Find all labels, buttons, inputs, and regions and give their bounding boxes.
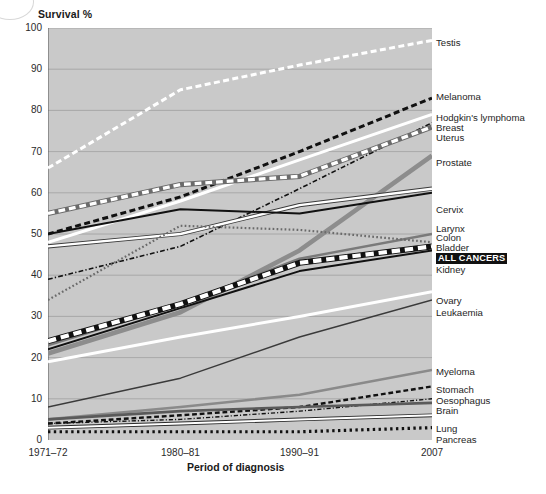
y-axis-tick: 40 — [16, 269, 42, 280]
series-label: Cervix — [436, 205, 463, 215]
series-label: Stomach — [436, 385, 474, 395]
gridlines — [48, 28, 432, 440]
y-axis-tick: 50 — [16, 228, 42, 239]
series-label-column: TestisMelanomaHodgkin's lymphomaBreastUt… — [436, 0, 546, 494]
series-label: Pancreas — [436, 435, 477, 445]
series-label: ALL CANCERS — [436, 253, 507, 264]
y-axis-tick: 0 — [16, 434, 42, 445]
y-axis-tick: 30 — [16, 310, 42, 321]
y-axis-tick: 100 — [16, 22, 42, 33]
series-line — [48, 127, 432, 214]
series-label: Melanoma — [436, 92, 481, 102]
y-axis-tick: 20 — [16, 352, 42, 363]
x-axis-title: Period of diagnosis — [187, 461, 284, 473]
series-label: Uterus — [436, 133, 464, 143]
x-axis-tick: 1990–91 — [265, 447, 335, 458]
survival-chart-figure: Survival % 1009080706050403020100 Testis… — [0, 0, 546, 494]
x-axis-tick: 1971–72 — [13, 447, 83, 458]
series-label: Ovary — [436, 296, 462, 306]
series-line — [48, 428, 432, 432]
series-line — [48, 300, 432, 407]
y-axis-tick-group: 1009080706050403020100 — [10, 0, 42, 494]
series-line — [48, 98, 432, 234]
y-axis-tick: 70 — [16, 146, 42, 157]
series-label: Lung — [436, 424, 457, 434]
series-label: Leukaemia — [436, 308, 483, 318]
series-label: Testis — [436, 38, 461, 48]
x-axis-tick: 1980–81 — [145, 447, 215, 458]
y-axis-title: Survival % — [38, 8, 92, 20]
chart-svg — [48, 28, 432, 440]
y-axis-tick: 60 — [16, 187, 42, 198]
series-lines — [48, 40, 432, 431]
series-label: Kidney — [436, 265, 465, 275]
y-axis-tick: 90 — [16, 63, 42, 74]
series-label: Brain — [436, 406, 458, 416]
series-label: Myeloma — [436, 367, 475, 377]
y-axis-tick: 80 — [16, 104, 42, 115]
plot-area — [48, 28, 432, 440]
series-label: Prostate — [436, 158, 472, 168]
series-label: Bladder — [436, 243, 469, 253]
x-axis-tick: 2007 — [397, 447, 467, 458]
y-axis-tick: 10 — [16, 393, 42, 404]
